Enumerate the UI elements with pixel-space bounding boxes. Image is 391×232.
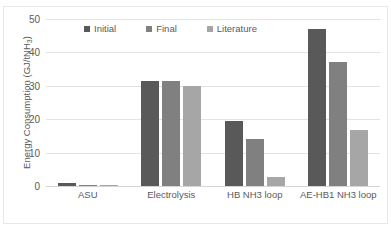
bar bbox=[183, 86, 201, 186]
legend-label: Literature bbox=[217, 23, 257, 34]
gridline-0: 0 bbox=[46, 186, 380, 187]
bar bbox=[225, 121, 243, 186]
legend-swatch-icon bbox=[207, 26, 213, 32]
bar bbox=[329, 62, 347, 186]
legend-swatch-icon bbox=[84, 26, 90, 32]
bar bbox=[79, 185, 97, 186]
x-axis-label: HB NH3 loop bbox=[213, 189, 297, 200]
bar-group bbox=[130, 19, 214, 186]
bar bbox=[246, 139, 264, 186]
y-axis-title: Energy Consumption (GJ/tNH3) bbox=[21, 15, 32, 191]
bar bbox=[267, 177, 285, 186]
y-tick-label-20: 20 bbox=[29, 114, 40, 125]
x-axis-category-labels: ASUElectrolysisHB NH3 loopAE-HB1 NH3 loo… bbox=[46, 189, 380, 200]
bar bbox=[58, 183, 76, 186]
bar bbox=[100, 185, 118, 186]
bar bbox=[350, 130, 368, 186]
bar-group bbox=[297, 19, 381, 186]
bar-group bbox=[213, 19, 297, 186]
y-tick-label-30: 30 bbox=[29, 80, 40, 91]
y-tick-label-40: 40 bbox=[29, 47, 40, 58]
legend-label: Initial bbox=[94, 23, 116, 34]
y-axis-title-subscript: 3 bbox=[26, 39, 33, 43]
bar bbox=[308, 29, 326, 186]
energy-consumption-bar-chart: Energy Consumption (GJ/tNH3) 50403020100… bbox=[0, 0, 391, 232]
bar bbox=[141, 81, 159, 186]
y-tick-label-50: 50 bbox=[29, 14, 40, 25]
legend-item: Initial bbox=[84, 23, 116, 34]
plot-area: 50403020100 bbox=[46, 19, 380, 186]
legend-label: Final bbox=[156, 23, 177, 34]
legend-item: Final bbox=[146, 23, 177, 34]
clipped-chart-title bbox=[60, 0, 240, 1]
legend-item: Literature bbox=[207, 23, 257, 34]
x-axis-label: ASU bbox=[46, 189, 130, 200]
chart-legend: InitialFinalLiterature bbox=[84, 23, 257, 34]
x-axis-label: AE-HB1 NH3 loop bbox=[297, 189, 381, 200]
bar-group bbox=[46, 19, 130, 186]
y-tick-label-0: 0 bbox=[34, 181, 40, 192]
y-tick-label-10: 10 bbox=[29, 147, 40, 158]
bar bbox=[162, 81, 180, 186]
bar-groups bbox=[46, 19, 380, 186]
legend-swatch-icon bbox=[146, 26, 152, 32]
x-axis-label: Electrolysis bbox=[130, 189, 214, 200]
